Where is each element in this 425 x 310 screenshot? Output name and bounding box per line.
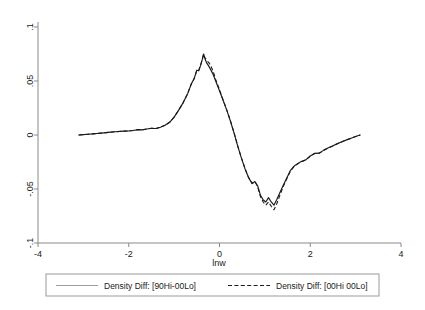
legend-label-0: Density Diff: [90Hi-00Lo] [104, 281, 196, 291]
y-tick-label-2: 0 [25, 132, 35, 137]
y-tick-label-0: .1 [25, 23, 35, 31]
x-axis-title: lnw [212, 258, 226, 268]
y-tick-label-1: .05 [25, 75, 35, 88]
x-tick-label-1: -2 [125, 249, 133, 259]
x-tick-label-4: 4 [398, 249, 403, 259]
density-difference-line-chart: .1.050-.05-.1 -4-2024 lnw Density Diff: … [0, 0, 425, 310]
y-tick-label-3: -.05 [25, 181, 35, 197]
chart-figure: .1.050-.05-.1 -4-2024 lnw Density Diff: … [0, 0, 425, 310]
chart-legend: Density Diff: [90Hi-00Lo] Density Diff: … [46, 274, 379, 296]
legend-label-1: Density Diff: [00Hi 00Lo] [276, 281, 368, 291]
x-tick-label-0: -4 [34, 249, 42, 259]
x-tick-label-3: 2 [308, 249, 313, 259]
y-tick-label-4: -.1 [25, 238, 35, 249]
